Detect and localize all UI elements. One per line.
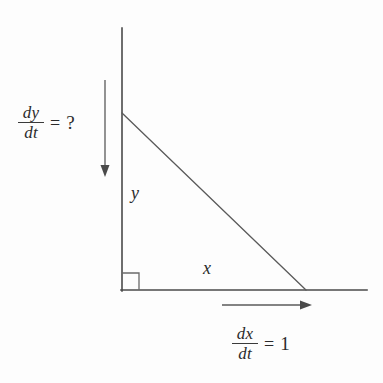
dydt-equals-sign: = — [50, 114, 60, 132]
dxdt-numerator: dx — [234, 325, 256, 343]
dydt-value: ? — [66, 113, 74, 132]
right-arrow-icon — [222, 301, 312, 310]
down-arrow-icon — [101, 80, 110, 177]
dxdt-value: 1 — [280, 334, 290, 353]
dydt-numerator: dy — [20, 104, 42, 122]
triangle-diagram — [0, 0, 383, 383]
dydt-denominator: dt — [21, 123, 41, 141]
dxdt-denominator: dt — [235, 344, 255, 362]
dydt-fraction: dy dt — [18, 104, 44, 141]
hypotenuse-line — [122, 113, 306, 290]
dxdt-fraction: dx dt — [232, 325, 258, 362]
dxdt-label: dx dt = 1 — [232, 325, 290, 362]
dydt-label: dy dt = ? — [18, 104, 75, 141]
horizontal-leg-label: x — [203, 258, 211, 279]
vertical-leg-label: y — [131, 183, 139, 204]
dxdt-equals-sign: = — [264, 335, 274, 353]
right-angle-marker — [122, 273, 139, 290]
